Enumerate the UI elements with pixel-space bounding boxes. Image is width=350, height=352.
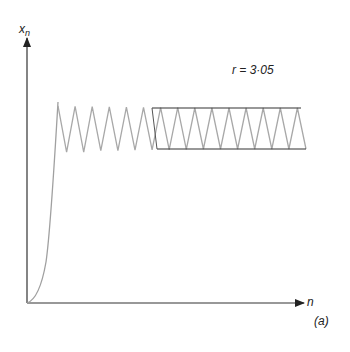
x-axis-label: n (307, 295, 314, 309)
logistic-map-chart (0, 0, 350, 352)
initial-rise-curve (27, 102, 58, 303)
parameter-annotation: r = 3·05 (232, 63, 274, 77)
oscillation-series (58, 106, 306, 152)
y-axis-label: xn (19, 22, 30, 38)
panel-label: (a) (314, 314, 329, 328)
